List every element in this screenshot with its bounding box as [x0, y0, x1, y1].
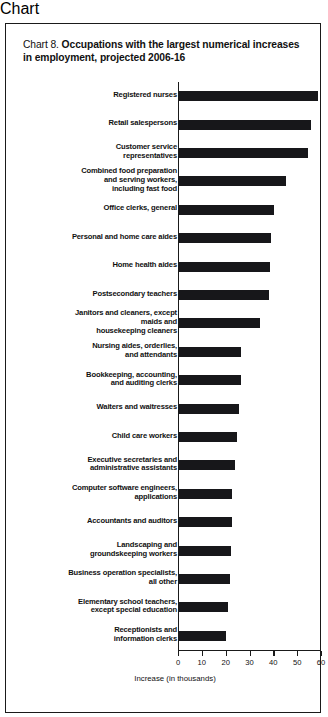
x-tick-label: 40	[260, 658, 286, 667]
bar	[178, 546, 231, 556]
bar-category-label: Executive secretaries andadministrative …	[25, 456, 177, 473]
bar	[178, 574, 230, 584]
bar-row: Janitors and cleaners, exceptmaids andho…	[18, 309, 318, 337]
bar-category-label: Personal and home care aides	[25, 233, 177, 242]
chart-title: Chart 8. Occupations with the largest nu…	[23, 38, 309, 65]
bar-category-label: Nursing aides, orderlies,and attendants	[25, 342, 177, 359]
bar-category-label: Receptionists andinformation clerks	[25, 626, 177, 643]
bar-category-label: Retail salespersons	[25, 119, 177, 128]
bar-row: Office clerks, general	[18, 196, 318, 224]
x-tick-label: 60	[308, 658, 328, 667]
bar-row: Child care workers	[18, 423, 318, 451]
bar-row: Computer software engineers,applications	[18, 480, 318, 508]
chart-number: Chart 8.	[23, 39, 59, 50]
bar-category-label: Home health aides	[25, 261, 177, 270]
bar-category-label: Registered nurses	[25, 91, 177, 100]
bar-category-label: Accountants and auditors	[25, 517, 177, 526]
bar-row: Waiters and waitresses	[18, 394, 318, 422]
bar-row: Retail salespersons	[18, 110, 318, 138]
bar-row: Home health aides	[18, 252, 318, 280]
bar	[178, 262, 270, 272]
bar-row: Postsecondary teachers	[18, 281, 318, 309]
bar-category-label: Waiters and waitresses	[25, 403, 177, 412]
bar-row: Receptionists andinformation clerks	[18, 622, 318, 650]
bar-row: Bookkeeping, accounting,and auditing cle…	[18, 366, 318, 394]
bar-rows: Registered nursesRetail salespersonsCust…	[18, 82, 318, 650]
bar-row: Business operation specialists,all other	[18, 565, 318, 593]
bar	[178, 432, 237, 442]
x-axis-title: Increase (in thousands)	[18, 674, 318, 683]
x-tick-label: 20	[213, 658, 239, 667]
bar	[178, 120, 311, 130]
chart-page: Chart 8. Occupations with the largest nu…	[0, 18, 328, 717]
bar	[178, 347, 241, 357]
x-tick-label: 10	[189, 658, 215, 667]
bar-category-label: Landscaping andgroundskeeping workers	[25, 541, 177, 558]
bar-row: Personal and home care aides	[18, 224, 318, 252]
bar-row: Elementary school teachers,except specia…	[18, 593, 318, 621]
bar	[178, 602, 228, 612]
bar-category-label: Customer servicerepresentatives	[25, 143, 177, 160]
x-tick-label: 0	[165, 658, 191, 667]
bar	[178, 205, 274, 215]
x-tick	[226, 651, 227, 656]
plot-area: Registered nursesRetail salespersonsCust…	[18, 82, 318, 657]
bar-category-label: Computer software engineers,applications	[25, 484, 177, 501]
x-tick	[250, 651, 251, 656]
bar	[178, 290, 269, 300]
bar	[178, 318, 260, 328]
bar-row: Combined food preparationand serving wor…	[18, 167, 318, 195]
bar	[178, 148, 308, 158]
x-tick	[178, 651, 179, 656]
bar-category-label: Postsecondary teachers	[25, 290, 177, 299]
bar	[178, 631, 226, 641]
bar-row: Accountants and auditors	[18, 508, 318, 536]
x-tick-label: 30	[237, 658, 263, 667]
bar	[178, 176, 286, 186]
x-tick-label: 50	[284, 658, 310, 667]
x-tick	[321, 651, 322, 656]
bar	[178, 517, 232, 527]
bar	[178, 404, 239, 414]
bar-row: Registered nurses	[18, 82, 318, 110]
bar	[178, 375, 241, 385]
bar-category-label: Elementary school teachers,except specia…	[25, 598, 177, 615]
bar-row: Executive secretaries andadministrative …	[18, 451, 318, 479]
bar-category-label: Combined food preparationand serving wor…	[25, 167, 177, 193]
bar	[178, 460, 235, 470]
bar-row: Landscaping andgroundskeeping workers	[18, 536, 318, 564]
bar-category-label: Child care workers	[25, 432, 177, 441]
chart-title-text: Occupations with the largest numerical i…	[23, 39, 299, 63]
bar	[178, 489, 232, 499]
bar-row: Nursing aides, orderlies,and attendants	[18, 338, 318, 366]
bar-category-label: Business operation specialists,all other	[25, 569, 177, 586]
bar-category-label: Office clerks, general	[25, 204, 177, 213]
x-tick	[202, 651, 203, 656]
x-tick	[273, 651, 274, 656]
bar-row: Customer servicerepresentatives	[18, 139, 318, 167]
y-axis-line	[178, 82, 180, 650]
x-tick	[297, 651, 298, 656]
bar-category-label: Bookkeeping, accounting,and auditing cle…	[25, 371, 177, 388]
bar	[178, 91, 318, 101]
bar-category-label: Janitors and cleaners, exceptmaids andho…	[25, 309, 177, 335]
bar	[178, 233, 271, 243]
chart-frame: Chart 8. Occupations with the largest nu…	[5, 23, 321, 713]
